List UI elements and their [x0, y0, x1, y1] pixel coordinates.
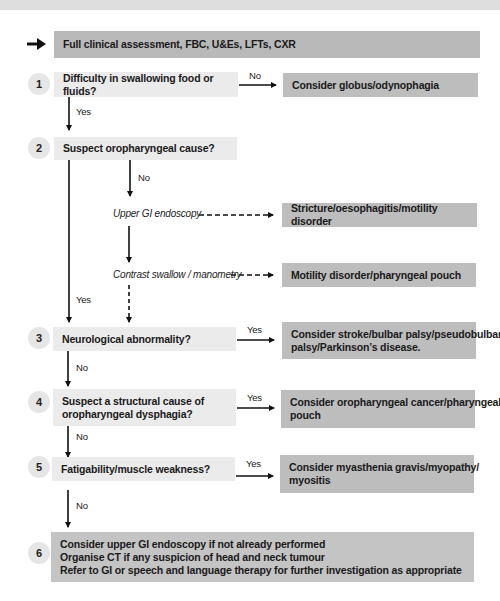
step-2-no-label: No: [138, 172, 150, 183]
step-3-question: Neurological abnormality?: [53, 327, 236, 351]
start-box: Full clinical assessment, FBC, U&Es, LFT…: [54, 31, 480, 58]
step-2-yes-label: Yes: [76, 294, 91, 305]
step-number-5: 5: [28, 456, 50, 478]
step-4-no-label: No: [76, 431, 88, 442]
step-4-result: Consider oropharyngeal cancer/pharyngeal…: [281, 390, 475, 428]
step-3-no-label: No: [76, 362, 88, 373]
step-4-yes-label: Yes: [247, 392, 262, 403]
step-number-3: 3: [28, 327, 50, 349]
step-5-yes-label: Yes: [246, 458, 261, 469]
step-1-question: Difficulty in swallowing food or fluids?: [54, 72, 238, 97]
step-6-action-3: Refer to GI or speech and language thera…: [60, 564, 462, 577]
start-label: Full clinical assessment, FBC, U&Es, LFT…: [63, 38, 296, 51]
step-1-no-label: No: [249, 70, 261, 81]
step-6-action-2: Organise CT if any suspicion of head and…: [60, 551, 325, 564]
step-number-6: 6: [28, 542, 50, 564]
step-3-yes-label: Yes: [247, 324, 262, 335]
step-6-action-1: Consider upper GI endoscopy if not alrea…: [60, 538, 325, 551]
step-6-actions: Consider upper GI endoscopy if not alrea…: [51, 532, 474, 582]
investigation-endoscopy-label: Upper GI endoscopy: [113, 208, 201, 219]
step-4-question: Suspect a structural cause of oropharyng…: [53, 389, 236, 426]
step-5-result: Consider myasthenia gravis/myopathy/ myo…: [280, 455, 474, 493]
step-5-question: Fatigability/muscle weakness?: [52, 457, 235, 481]
step-3-result: Consider stroke/bulbar palsy/pseudobulba…: [282, 322, 476, 359]
step-1-result: Consider globus/odynophagia: [283, 73, 478, 97]
step-number-4: 4: [28, 391, 50, 413]
step-number-1: 1: [28, 73, 50, 95]
step-2-question: Suspect oropharyngeal cause?: [54, 137, 237, 160]
investigation-contrast-label: Contrast swallow / manometry: [113, 269, 241, 280]
investigation-endoscopy-result: Stricture/oesophagitis/motility disorder: [282, 203, 477, 227]
start-arrow-icon: [27, 38, 46, 50]
step-5-no-label: No: [76, 500, 88, 511]
step-number-2: 2: [28, 137, 50, 159]
step-1-yes-label: Yes: [76, 106, 91, 117]
investigation-contrast-result: Motility disorder/pharyngeal pouch: [282, 263, 476, 287]
